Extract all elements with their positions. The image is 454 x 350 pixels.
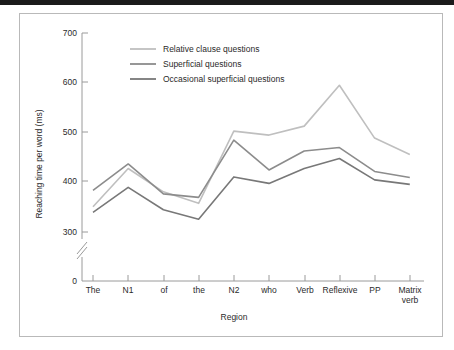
series-line-relative-clause-questions xyxy=(93,85,410,207)
top-rule-divider xyxy=(0,0,454,5)
figure-page: 700 600 500 400 300 0 Reaching time per … xyxy=(0,0,454,350)
y-axis-title: Reaching time per word (ms) xyxy=(34,109,44,218)
ytick-label-300: 300 xyxy=(63,227,77,237)
axis-break-marks xyxy=(77,242,87,259)
xtick-label-matrix: Matrix xyxy=(398,285,422,295)
ytick-label-400: 400 xyxy=(63,176,77,186)
xtick-label-pp: PP xyxy=(369,285,381,295)
xtick-label-n2: N2 xyxy=(229,285,240,295)
xtick-label-n1: N1 xyxy=(123,285,134,295)
xtick-label-reflexive: Reflexive xyxy=(323,285,358,295)
legend-label-occasional-superficial-questions: Occasional superficial questions xyxy=(163,74,284,84)
legend-label-superficial-questions: Superficial questions xyxy=(163,59,241,69)
y-axis xyxy=(77,33,87,281)
x-axis-ticks xyxy=(93,275,410,281)
legend-label-relative-clause-questions: Relative clause questions xyxy=(163,44,259,54)
xtick-label-the: The xyxy=(86,285,101,295)
ytick-label-600: 600 xyxy=(63,77,77,87)
xtick-label-the2: the xyxy=(193,285,205,295)
xtick-label-matrix-line2: verb xyxy=(402,295,419,305)
ytick-label-500: 500 xyxy=(63,127,77,137)
xtick-label-of: of xyxy=(160,285,168,295)
ytick-label-zero: 0 xyxy=(72,276,77,286)
series-lines xyxy=(93,85,410,219)
figure-frame: 700 600 500 400 300 0 Reaching time per … xyxy=(19,13,443,337)
xtick-label-verb: Verb xyxy=(296,285,314,295)
line-chart: 700 600 500 400 300 0 Reaching time per … xyxy=(20,14,442,336)
series-line-occasional-superficial-questions xyxy=(93,159,410,220)
series-line-superficial-questions xyxy=(93,140,410,197)
x-axis-title: Region xyxy=(221,312,248,322)
xtick-label-who: who xyxy=(260,285,277,295)
ytick-label-700: 700 xyxy=(63,28,77,38)
legend: Relative clause questions Superficial qu… xyxy=(130,44,284,84)
y-axis-ticks xyxy=(82,33,88,232)
